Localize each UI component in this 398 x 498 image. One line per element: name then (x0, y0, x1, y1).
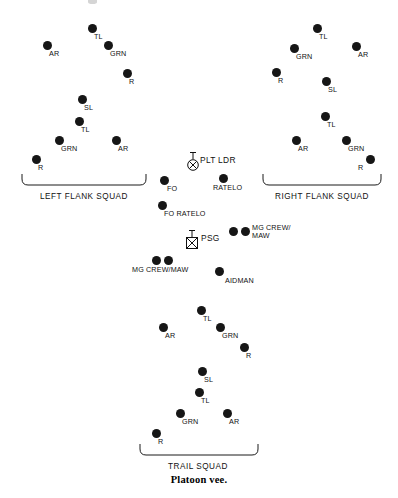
soldier-marker-mg-crew-maw (229, 227, 238, 236)
soldier-label-ar: AR (165, 332, 175, 340)
soldier-label-fo-ratelo: FO RATELO (164, 210, 206, 218)
soldier-label-ar: AR (49, 50, 59, 58)
soldier-label-grn: GRN (110, 50, 126, 58)
soldier-label-grn: GRN (182, 418, 198, 426)
soldier-label-fo: FO (167, 185, 177, 193)
soldier-label-ar: AR (358, 51, 368, 59)
soldier-marker-extra (164, 256, 173, 265)
psg-symbol (184, 228, 200, 250)
soldier-label-ar: AR (298, 145, 308, 153)
soldier-label-tl: TL (203, 315, 212, 323)
soldier-label-r: R (129, 78, 134, 86)
soldier-label-ratelo: RATELO (213, 184, 242, 192)
trail-squad-brace (139, 443, 259, 456)
soldier-label-r: R (278, 77, 283, 85)
soldier-label-aidman: AIDMAN (225, 277, 254, 285)
soldier-marker-aidman (215, 267, 224, 276)
plt-ldr-label: PLT LDR (200, 155, 236, 165)
platoon-vee-diagram: TLARGRNRSLTLGRNARRLEFT FLANK SQUADTLGRNA… (0, 0, 398, 498)
left-flank-squad-label: LEFT FLANK SQUAD (24, 192, 144, 201)
soldier-label-mg-crew-maw: MG CREW/ MAW (252, 224, 291, 241)
soldier-label-tl: TL (327, 121, 336, 129)
soldier-marker-ratelo (219, 174, 228, 183)
soldier-label-tl: TL (201, 397, 210, 405)
soldier-marker-extra (241, 227, 250, 236)
soldier-label-tl: TL (81, 126, 90, 134)
soldier-label-grn: GRN (348, 145, 364, 153)
soldier-marker-mg-crew-maw (152, 256, 161, 265)
soldier-label-grn: GRN (296, 53, 312, 61)
soldier-label-r: R (246, 352, 251, 360)
right-flank-squad-label: RIGHT FLANK SQUAD (262, 192, 382, 201)
right-flank-squad-brace (262, 173, 382, 186)
clipped-top-marker (88, 0, 97, 4)
soldier-label-ar: AR (229, 418, 239, 426)
soldier-label-sl: SL (204, 376, 213, 384)
soldier-label-r: R (38, 164, 43, 172)
soldier-label-tl: TL (94, 33, 103, 41)
soldier-label-sl: SL (328, 86, 337, 94)
soldier-label-grn: GRN (61, 145, 77, 153)
figure-caption: Platoon vee. (0, 474, 398, 485)
soldier-label-grn: GRN (222, 332, 238, 340)
soldier-label-ar: AR (118, 145, 128, 153)
soldier-label-mg-crew-maw: MG CREW/MAW (132, 266, 188, 274)
soldier-label-tl: TL (319, 33, 328, 41)
soldier-marker-r (366, 155, 375, 164)
plt-ldr-symbol (185, 150, 201, 172)
trail-squad-label: TRAIL SQUAD (138, 462, 258, 471)
psg-label: PSG (201, 233, 220, 243)
left-flank-squad-brace (21, 173, 147, 186)
soldier-label-sl: SL (84, 104, 93, 112)
soldier-label-r: R (358, 164, 363, 172)
